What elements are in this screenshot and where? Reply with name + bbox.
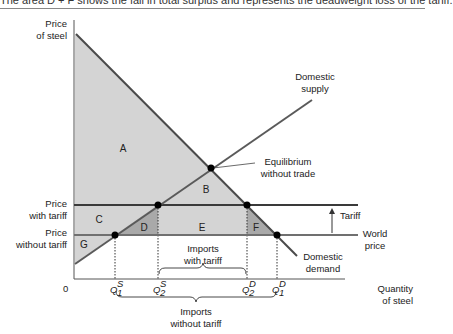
supply-label-line2: supply bbox=[301, 83, 329, 94]
demand-label-line1: Domestic bbox=[303, 251, 343, 262]
tariff-label: Tariff bbox=[340, 210, 361, 221]
equilibrium-label-line2: without trade bbox=[260, 168, 315, 179]
x-axis-label-line1: Quantity bbox=[378, 283, 414, 294]
imports-without-tariff-label-line2: without tariff bbox=[169, 318, 221, 329]
price-with-tariff-label-line2: with tariff bbox=[28, 210, 67, 221]
svg-text:D: D bbox=[279, 278, 286, 289]
area-c-label: C bbox=[95, 214, 102, 225]
tariff-arrow-icon bbox=[329, 208, 335, 214]
svg-text:D: D bbox=[249, 278, 256, 289]
price-with-tariff-label-line1: Price bbox=[45, 198, 67, 209]
q1s-tick-label: Q 1 S bbox=[110, 278, 124, 298]
origin-label: 0 bbox=[63, 283, 68, 294]
svg-text:S: S bbox=[160, 278, 167, 289]
demand-label-line2: demand bbox=[306, 263, 340, 274]
equilibrium-point bbox=[208, 165, 215, 172]
svg-text:S: S bbox=[117, 278, 124, 289]
q2d-tick-label: Q 2 D bbox=[242, 278, 256, 298]
imports-with-tariff-label-line1: Imports bbox=[187, 243, 219, 254]
x-axis-label-line2: of steel bbox=[382, 295, 413, 306]
supply-label-line1: Domestic bbox=[295, 71, 335, 82]
y-axis-label-line2: of steel bbox=[36, 30, 67, 41]
price-without-tariff-label-line1: Price bbox=[45, 227, 67, 238]
y-axis-label-line1: Price bbox=[45, 18, 67, 29]
area-f-label: F bbox=[253, 222, 259, 233]
q1d-point bbox=[274, 232, 281, 239]
q2s-tick-label: Q 2 S bbox=[153, 278, 167, 298]
area-d-label: D bbox=[140, 222, 147, 233]
equilibrium-label-line1: Equilibrium bbox=[265, 156, 312, 167]
area-b-label: B bbox=[203, 184, 210, 195]
world-price-label-line2: price bbox=[365, 240, 386, 251]
area-g-label: G bbox=[80, 239, 88, 250]
area-a-label: A bbox=[120, 143, 127, 154]
world-price-label-line1: World bbox=[363, 228, 388, 239]
imports-with-tariff-label-line2: with tariff bbox=[183, 255, 222, 266]
q2s-point bbox=[155, 202, 162, 209]
imports-without-tariff-label-line1: Imports bbox=[180, 306, 212, 317]
price-without-tariff-label-line2: without tariff bbox=[15, 239, 67, 250]
area-e-label: E bbox=[199, 222, 206, 233]
q2d-point bbox=[244, 202, 251, 209]
q1s-point bbox=[112, 232, 119, 239]
q1d-tick-label: Q 1 D bbox=[272, 278, 286, 298]
